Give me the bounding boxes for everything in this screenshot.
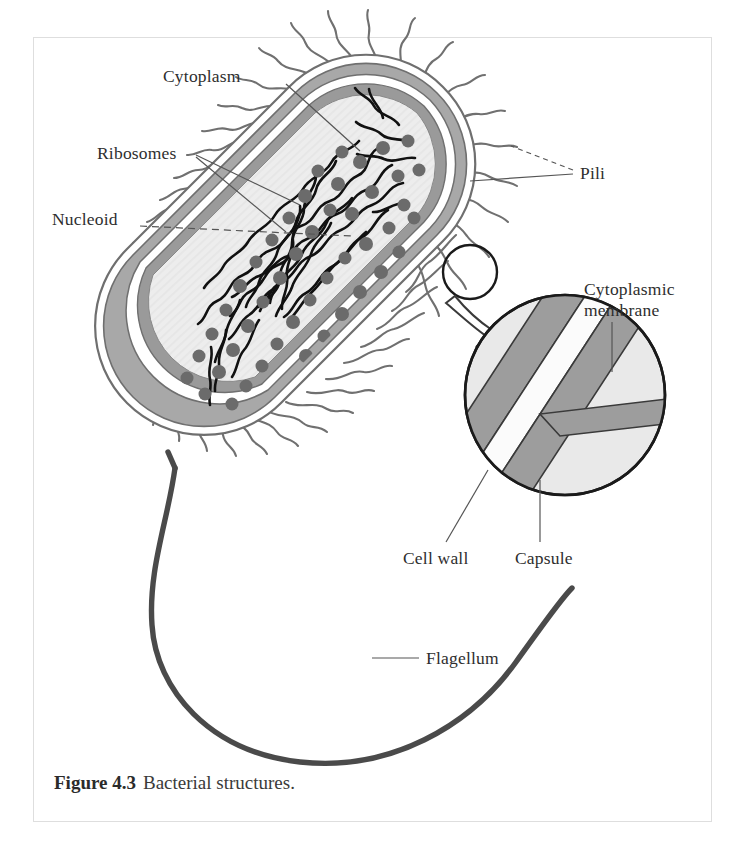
label-capsule: Capsule [515,548,573,569]
label-cytoplasmic-membrane: Cytoplasmic membrane [584,279,714,321]
bacterial-cell-diagram [0,0,732,845]
leader-pili-dashed [511,146,573,170]
label-cytoplasm: Cytoplasm [163,66,241,87]
label-ribosomes: Ribosomes [97,143,177,164]
figure-caption: Figure 4.3Bacterial structures. [54,772,295,794]
label-flagellum: Flagellum [426,648,499,669]
label-nucleoid: Nucleoid [52,209,118,230]
label-pili: Pili [580,163,605,184]
label-cell-wall: Cell wall [403,548,468,569]
figure-page: Cytoplasm Ribosomes Nucleoid Pili Cytopl… [0,0,732,845]
figure-number: Figure 4.3 [54,772,136,793]
cell-envelope [95,55,475,435]
callout-source-circle [443,245,497,299]
figure-caption-text: Bacterial structures. [143,772,295,793]
flagellum-strand [151,468,572,763]
flagellum-anchor [168,452,175,468]
leader-cell-wall [446,470,488,542]
